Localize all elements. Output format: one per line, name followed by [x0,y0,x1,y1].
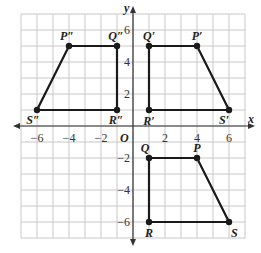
x-tick-label: −4 [63,131,76,145]
x-tick-label: −6 [31,131,44,145]
x-tick-label: 6 [226,131,232,145]
y-tick-label: 4 [124,55,130,69]
vertex-label: P″ [60,29,74,43]
vertex-point [146,107,152,113]
vertex-point [114,43,120,49]
y-tick-label: −4 [117,183,130,197]
origin-label: O [120,131,129,145]
vertex-point [194,43,200,49]
vertex-point [146,219,152,225]
vertex-point [146,155,152,161]
vertex-label: Q′ [143,29,155,43]
vertex-label: S″ [26,113,39,127]
y-tick-label: 6 [124,23,130,37]
vertex-point [146,43,152,49]
y-axis-label: y [122,1,130,15]
vertex-label: S [231,226,238,240]
x-axis-label: x [247,112,254,126]
vertex-label: Q [141,141,150,155]
y-tick-label: −2 [117,151,130,165]
vertex-point [66,43,72,49]
x-tick-label: 2 [162,131,168,145]
vertex-label: P′ [192,29,203,43]
vertex-label: S′ [219,113,229,127]
coordinate-plane: xyO−6−4−2246642−2−4−6PQRSP′Q′R′S′P″Q″R″S… [0,0,261,253]
x-tick-label: −2 [95,131,108,145]
vertex-label: R″ [108,113,124,127]
vertex-label: Q″ [108,29,123,43]
vertex-label: R [144,226,153,240]
y-tick-label: 2 [124,87,130,101]
vertex-point [226,219,232,225]
vertex-label: P [193,141,201,155]
vertex-point [194,155,200,161]
vertex-label: R′ [142,114,154,128]
y-tick-label: −6 [117,215,130,229]
